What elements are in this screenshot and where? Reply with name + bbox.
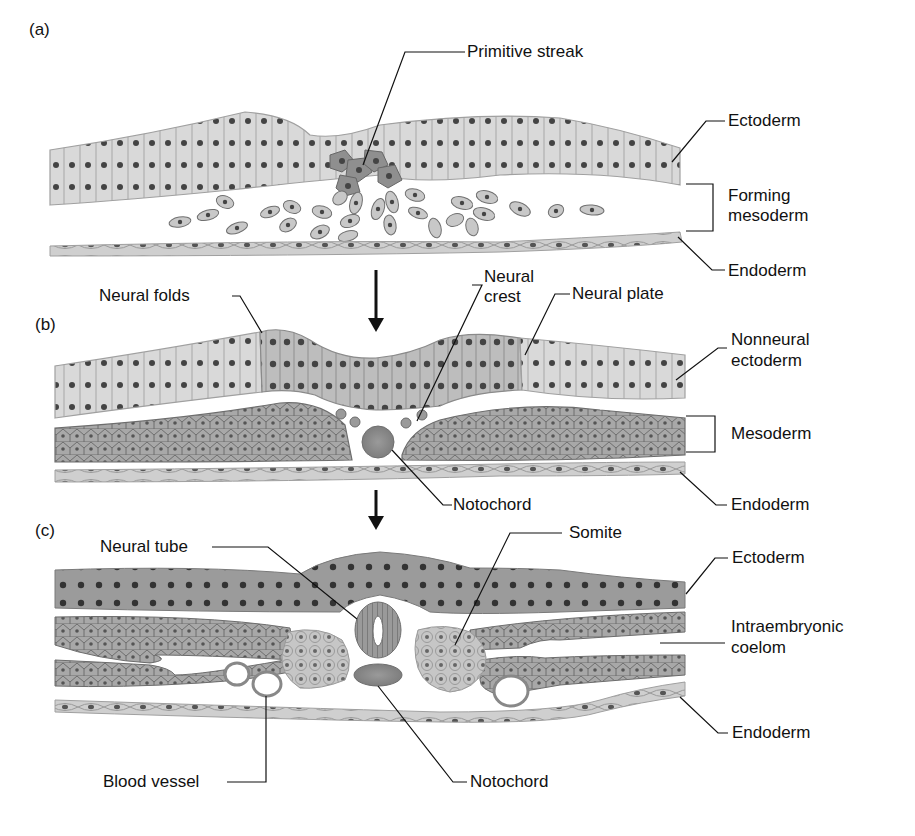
label-intraembryonic-coelom-line1: Intraembryonic xyxy=(731,617,843,637)
panel-b-neural-plate xyxy=(260,330,522,410)
panel-b-endoderm-layer xyxy=(55,462,685,482)
label-b-endoderm: Endoderm xyxy=(731,495,809,515)
label-intraembryonic-coelom-line2: coelom xyxy=(731,638,786,658)
stage-arrow-a-to-b xyxy=(368,270,384,332)
panel-c-notochord xyxy=(354,664,402,686)
label-c-ectoderm: Ectoderm xyxy=(732,548,805,568)
label-c-endoderm: Endoderm xyxy=(732,723,810,743)
label-a-ectoderm: Ectoderm xyxy=(728,111,801,131)
label-neural-crest-line2: crest xyxy=(484,287,521,307)
panel-c-somite-right xyxy=(415,626,486,692)
panel-a-endoderm-layer xyxy=(50,232,682,256)
label-blood-vessel: Blood vessel xyxy=(103,772,199,792)
leader-neural-folds xyxy=(232,296,262,333)
panel-c-endoderm-layer xyxy=(55,682,685,722)
label-nonneural-ectoderm-line1: Nonneural xyxy=(731,330,809,350)
panel-b-ectoderm-right xyxy=(520,338,685,399)
label-somite: Somite xyxy=(569,523,622,543)
neural-tube-lumen xyxy=(373,616,383,646)
leader-c-ectoderm xyxy=(686,558,728,594)
panel-tag-a: (a) xyxy=(29,20,50,40)
panel-b-notochord xyxy=(362,426,394,458)
leader-c-notochord xyxy=(378,686,467,782)
blood-vessel-right xyxy=(494,676,528,706)
label-neural-folds: Neural folds xyxy=(99,286,190,306)
leader-a-forming-mesoderm xyxy=(686,184,713,231)
panel-tag-c: (c) xyxy=(35,521,55,541)
stage-arrow-b-to-c xyxy=(368,490,384,530)
migrating-mesoderm-cells xyxy=(168,187,604,244)
label-forming-mesoderm-line2: mesoderm xyxy=(728,206,808,226)
label-c-notochord: Notochord xyxy=(470,772,548,792)
label-forming-mesoderm-line1: Forming xyxy=(728,186,790,206)
label-neural-tube: Neural tube xyxy=(100,537,188,557)
neural-crest-cells xyxy=(336,409,427,428)
panel-b-illustration xyxy=(55,330,685,482)
leader-c-endoderm xyxy=(680,697,728,733)
panel-b-ectoderm-left xyxy=(55,332,262,418)
label-neural-crest-line1: Neural xyxy=(484,267,534,287)
panel-c-somite-left xyxy=(282,630,350,689)
panel-c-mesoderm-right-upper xyxy=(470,612,685,650)
label-b-notochord: Notochord xyxy=(453,495,531,515)
label-neural-plate: Neural plate xyxy=(572,284,664,304)
panel-b-mesoderm-right xyxy=(402,407,685,461)
leader-b-endoderm xyxy=(680,472,727,505)
panel-c-mesoderm-upper xyxy=(55,616,295,663)
leader-b-mesoderm xyxy=(686,416,715,452)
leader-a-endoderm xyxy=(678,237,725,270)
blood-vessel-left-2 xyxy=(253,672,281,696)
panel-tag-b: (b) xyxy=(35,315,56,335)
panel-c-illustration xyxy=(55,552,685,722)
label-nonneural-ectoderm-line2: ectoderm xyxy=(731,351,802,371)
blood-vessel-left-1 xyxy=(225,663,249,685)
label-a-endoderm: Endoderm xyxy=(728,261,806,281)
panel-a-illustration xyxy=(50,112,682,256)
label-primitive-streak: Primitive streak xyxy=(467,42,583,62)
label-b-mesoderm: Mesoderm xyxy=(731,424,811,444)
